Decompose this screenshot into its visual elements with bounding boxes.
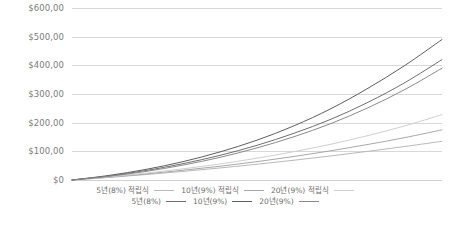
series-lines	[72, 8, 442, 180]
y-tick-label: $600,00	[0, 3, 64, 13]
y-tick-label: $500,00	[0, 32, 64, 42]
gridline-0	[72, 180, 442, 181]
legend-label: 20년(9%)	[259, 196, 293, 207]
y-tick-label: $400,00	[0, 60, 64, 70]
legend-row: 5년(8%) 적립식10년(9%) 적립식20년(9%) 적립식	[0, 185, 450, 196]
y-tick-label: $300,00	[0, 89, 64, 99]
legend-label: 5년(8%) 적립식	[96, 185, 149, 196]
legend-label: 10년(9%) 적립식	[181, 185, 239, 196]
legend-label: 5년(8%)	[131, 196, 161, 207]
legend-label: 10년(9%)	[193, 196, 227, 207]
legend-item[interactable]: 20년(9%)	[259, 196, 318, 207]
line-chart: $600,00$500,00$400,00$300,00$200,00$100,…	[0, 0, 450, 225]
legend-item[interactable]: 5년(8%) 적립식	[96, 185, 174, 196]
plot-area	[72, 8, 442, 180]
legend-line-swatch	[232, 201, 252, 202]
y-tick-label: $200,00	[0, 118, 64, 128]
legend-line-swatch	[154, 190, 174, 191]
series-line	[72, 40, 442, 180]
legend-row: 5년(8%)10년(9%)20년(9%)	[0, 196, 450, 207]
legend-item[interactable]: 10년(9%) 적립식	[181, 185, 264, 196]
legend-line-swatch	[334, 190, 354, 191]
legend-line-swatch	[299, 201, 319, 202]
legend-item[interactable]: 5년(8%)	[131, 196, 186, 207]
series-line	[72, 68, 442, 180]
series-line	[72, 115, 442, 180]
y-axis: $600,00$500,00$400,00$300,00$200,00$100,…	[0, 8, 68, 180]
legend-item[interactable]: 10년(9%)	[193, 196, 252, 207]
legend-label: 20년(9%) 적립식	[271, 185, 329, 196]
y-tick-label: $0	[0, 175, 64, 185]
legend-line-swatch	[166, 201, 186, 202]
chart-legend: 5년(8%) 적립식10년(9%) 적립식20년(9%) 적립식5년(8%)10…	[0, 185, 450, 225]
legend-item[interactable]: 20년(9%) 적립식	[271, 185, 354, 196]
legend-line-swatch	[244, 190, 264, 191]
y-tick-label: $100,00	[0, 146, 64, 156]
